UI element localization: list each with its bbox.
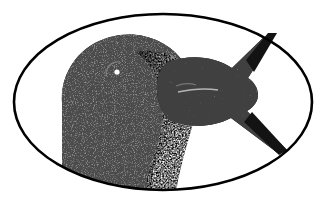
penguin-illustration: Monochrome halftone engraving of a pengu…: [0, 0, 327, 203]
eye-glint-icon: [114, 69, 119, 74]
illustration-svg: [0, 0, 327, 203]
